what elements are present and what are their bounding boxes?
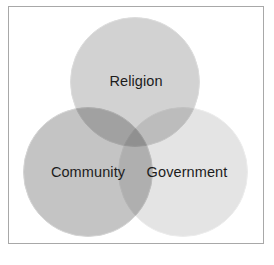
venn-diagram-canvas: Religion Community Government bbox=[0, 0, 274, 265]
venn-label-community: Community bbox=[51, 165, 125, 180]
venn-circle-group bbox=[0, 0, 274, 265]
venn-label-government: Government bbox=[147, 165, 228, 180]
venn-label-religion: Religion bbox=[109, 74, 162, 89]
